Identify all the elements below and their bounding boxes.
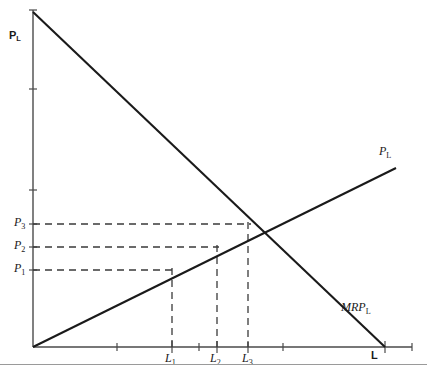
quantity-tick-label-l1: L1 — [165, 352, 176, 364]
y-axis-title: PL — [9, 30, 21, 41]
price-tick-label-p3: P3 — [14, 216, 25, 228]
mrp-l-curve — [33, 12, 385, 347]
price-tick-label-p2: P2 — [14, 239, 25, 251]
price-tick-label-p1: P1 — [14, 262, 25, 274]
p-l-curve-label: PL — [379, 145, 391, 157]
x-axis-end-label: L — [371, 350, 378, 361]
diagram-canvas — [0, 0, 427, 374]
bottom-divider — [0, 364, 427, 365]
mrp-l-curve-label: MRPL — [341, 301, 371, 313]
quantity-tick-label-l2: L2 — [210, 352, 221, 364]
p-l-supply-curve — [33, 168, 396, 347]
labor-market-diagram: PL P3 P2 P1 L1 L2 L3 PL MRPL L — [0, 0, 427, 374]
quantity-tick-label-l3: L3 — [242, 352, 253, 364]
